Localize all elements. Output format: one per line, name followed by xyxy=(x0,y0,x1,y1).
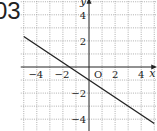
coordinate-plane: xyO−4−22442−2−4 xyxy=(0,0,157,131)
x-tick-label: −4 xyxy=(28,69,43,80)
y-tick-label: 2 xyxy=(80,36,86,47)
y-tick-label: −2 xyxy=(71,88,86,99)
x-axis-label: x xyxy=(149,67,156,80)
y-tick-label: 4 xyxy=(80,10,86,21)
y-axis-label: y xyxy=(79,0,87,8)
y-tick-label: −4 xyxy=(71,114,86,125)
origin-label: O xyxy=(94,69,102,80)
x-tick-label: 4 xyxy=(138,69,144,80)
x-tick-label: −2 xyxy=(55,69,70,80)
x-tick-label: 2 xyxy=(112,69,118,80)
